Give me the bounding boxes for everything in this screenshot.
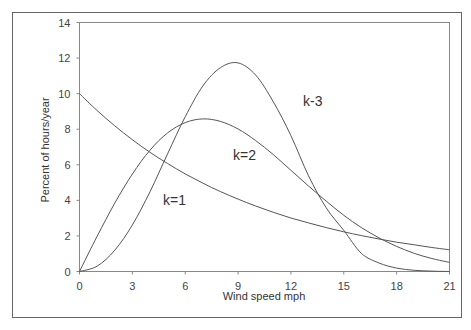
x-axis: 036912151821 (76, 272, 455, 292)
x-tick-label: 0 (76, 280, 82, 292)
x-tick-label: 15 (338, 280, 350, 292)
y-tick-label: 2 (64, 230, 70, 242)
y-axis: 02468101214 (58, 17, 79, 278)
y-tick-label: 14 (58, 17, 70, 29)
x-axis-title: Wind speed mph (223, 290, 306, 302)
curve-label-k3: k-3 (303, 93, 323, 109)
x-tick-label: 3 (129, 280, 135, 292)
x-tick-label: 6 (182, 280, 188, 292)
y-tick-label: 4 (64, 194, 70, 206)
curve-label-k2: k=2 (233, 147, 256, 163)
y-tick-label: 0 (64, 266, 70, 278)
y-tick-label: 6 (64, 159, 70, 171)
y-tick-label: 12 (58, 52, 70, 64)
curve-label-k1: k=1 (163, 192, 186, 208)
weibull-chart: 02468101214 036912151821 Wind speed mph … (0, 0, 471, 330)
x-tick-label: 21 (443, 280, 455, 292)
curves (80, 63, 450, 272)
curve-k1 (80, 94, 450, 250)
curve-k3 (80, 63, 450, 272)
x-tick-label: 18 (391, 280, 403, 292)
y-axis-title: Percent of hours/year (39, 97, 51, 203)
y-tick-label: 8 (64, 123, 70, 135)
y-tick-label: 10 (58, 88, 70, 100)
